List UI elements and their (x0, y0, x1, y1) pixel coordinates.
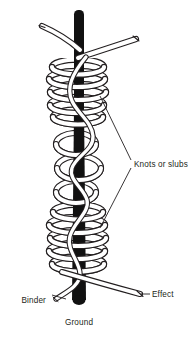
yarn-diagram: .tube-out { fill: none; stroke: #231f20;… (0, 0, 190, 351)
label-effect: Effect (152, 290, 174, 299)
label-ground: Ground (65, 318, 94, 327)
yarn-structure-figure: .tube-out { fill: none; stroke: #231f20;… (0, 0, 190, 351)
label-knots-or-slubs: Knots or slubs (134, 160, 188, 169)
label-binder: Binder (21, 296, 46, 305)
